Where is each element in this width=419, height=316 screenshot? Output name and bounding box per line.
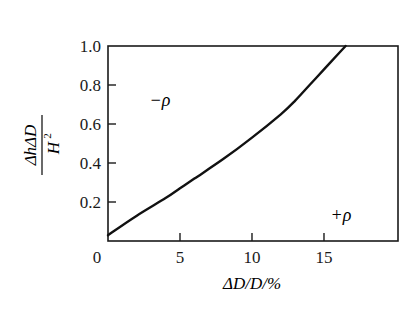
chart-canvas: 51015 0.20.40.60.81.0 0 −ρ +ρ ΔD/D/% ΔhΔ…: [0, 0, 419, 316]
y-label-numerator: ΔhΔD: [21, 124, 40, 166]
origin-label: 0: [93, 248, 102, 267]
y-tick-label: 0.2: [80, 193, 101, 212]
x-tick-label: 10: [243, 248, 260, 267]
x-tick-label: 15: [315, 248, 332, 267]
y-label-denominator: H: [44, 140, 63, 155]
x-axis-label: ΔD/D/%: [222, 274, 281, 293]
y-tick-label: 1.0: [80, 37, 101, 56]
positive-rho-label: +ρ: [331, 205, 352, 225]
y-axis-ticks: 0.20.40.60.81.0: [80, 37, 116, 212]
x-axis-ticks: 51015: [176, 233, 333, 267]
y-tick-label: 0.4: [80, 154, 102, 173]
negative-rho-label: −ρ: [150, 90, 171, 110]
y-axis-label: ΔhΔD H 2: [21, 115, 63, 175]
plot-frame: [108, 46, 398, 241]
y-tick-label: 0.6: [80, 115, 101, 134]
boundary-curve: [108, 46, 346, 235]
y-label-denominator-sup: 2: [41, 133, 53, 139]
x-tick-label: 5: [176, 248, 185, 267]
y-tick-label: 0.8: [80, 76, 101, 95]
